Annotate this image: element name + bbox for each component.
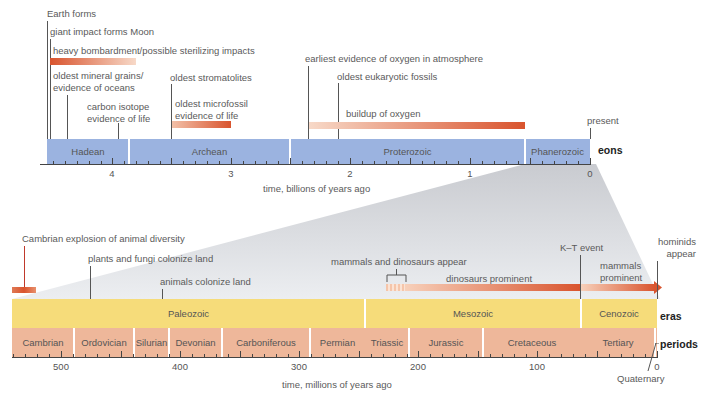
event-mammals-prominent: mammals prominent: [600, 260, 642, 284]
microfossil-bar: [172, 121, 231, 128]
quaternary-label: Quaternary: [617, 373, 665, 385]
event-hominids-line: [657, 261, 658, 299]
quaternary-pointer: [640, 343, 660, 373]
event-oldest-eukaryotic: oldest eukaryotic fossils: [337, 71, 437, 83]
event-plants-fungi: plants and fungi colonize land: [88, 253, 213, 265]
eon-proterozoic-label: Proterozoic: [383, 146, 431, 157]
event-oldest-microfossil: oldest microfossil evidence of life: [175, 98, 248, 122]
present-label: present: [587, 115, 619, 127]
event-oldest-stromatolites-line: [171, 84, 172, 139]
event-buildup-oxygen: buildup of oxygen: [346, 108, 420, 120]
event-carbon-isotope-line: [118, 123, 119, 139]
period-cambrian-label: Cambrian: [22, 337, 63, 348]
event-heavy-bombardment: heavy bombardment/possible sterilizing i…: [53, 45, 255, 57]
mammals-prominent-bar: [581, 284, 655, 291]
event-cambrian-explosion: Cambrian explosion of animal diversity: [22, 233, 185, 245]
dinosaurs-prominent-bar: [405, 284, 580, 291]
era-tick-300: 300: [291, 361, 307, 372]
event-animals-colonize-line: [162, 289, 163, 299]
event-earth-forms-line: [47, 21, 48, 139]
arrowhead-icon: [654, 281, 662, 294]
eon-tick-3: 3: [228, 168, 233, 179]
event-oldest-eukaryotic-line: [338, 83, 339, 139]
eon-archean-label: Archean: [192, 146, 227, 157]
event-oldest-mineral-grains-line: [67, 95, 68, 139]
event-giant-impact-line: [50, 39, 51, 139]
eons-row-label: eons: [598, 144, 623, 156]
eon-axis-label: time, billions of years ago: [263, 183, 370, 195]
bracket-icon: [386, 269, 408, 283]
event-oldest-mineral-grains: oldest mineral grains/ evidence of ocean…: [53, 70, 143, 94]
oxygen-buildup-bar: [309, 122, 525, 129]
event-oldest-mineral-grains-line1: oldest mineral grains/: [53, 70, 143, 82]
era-tick-100: 100: [529, 361, 545, 372]
event-giant-impact: giant impact forms Moon: [50, 26, 154, 38]
event-mammals-prominent-line1: mammals: [600, 260, 642, 272]
event-cambrian-explosion-line: [24, 246, 25, 290]
event-oldest-microfossil-line1: oldest microfossil: [175, 98, 248, 110]
period-jurassic-label: Jurassic: [429, 337, 464, 348]
period-triassic-label: Triassic: [371, 337, 403, 348]
eon-tick-4: 4: [109, 168, 114, 179]
eon-axis-ticks: [0, 158, 706, 165]
mammals-dinosaurs-appear-bar: [386, 284, 405, 291]
event-mammals-dinosaurs-appear: mammals and dinosaurs appear: [331, 256, 467, 268]
era-axis-ticks: [0, 351, 706, 358]
event-hominids-line2: appear: [666, 248, 696, 260]
period-carboniferous-label: Carboniferous: [236, 337, 296, 348]
cambrian-explosion-bar: [12, 287, 36, 293]
period-tertiary-label: Tertiary: [602, 337, 633, 348]
event-plants-fungi-line: [90, 266, 91, 299]
era-mesozoic-label: Mesozoic: [453, 308, 493, 319]
event-carbon-isotope-line1: carbon isotope: [87, 101, 150, 113]
eon-hadean-label: Hadean: [71, 146, 104, 157]
period-permian-label: Permian: [320, 337, 355, 348]
event-animals-colonize: animals colonize land: [160, 276, 251, 288]
event-oldest-mineral-grains-line2: evidence of oceans: [53, 82, 143, 94]
event-kt: K–T event: [560, 242, 603, 254]
bombardment-bar: [50, 58, 136, 65]
eon-phanerozoic-label: Phanerozoic: [531, 146, 584, 157]
eon-tick-2: 2: [347, 168, 352, 179]
era-cenozoic: Cenozoic: [581, 299, 657, 328]
era-paleozoic: Paleozoic: [12, 299, 365, 328]
era-tick-500: 500: [53, 361, 69, 372]
period-cretaceous-label: Cretaceous: [508, 337, 557, 348]
eras-row-label: eras: [660, 310, 682, 322]
event-mammals-prominent-line2: prominent: [600, 272, 642, 284]
event-earliest-oxygen: earliest evidence of oxygen in atmospher…: [305, 53, 483, 65]
event-hominids-line1: hominids: [658, 236, 696, 248]
period-ordovician-label: Ordovician: [81, 337, 126, 348]
event-kt-line: [580, 255, 581, 299]
present-line: [590, 128, 591, 139]
event-earth-forms: Earth forms: [47, 8, 96, 20]
event-oldest-stromatolites: oldest stromatolites: [170, 72, 252, 84]
era-axis-label: time, millions of years ago: [282, 379, 392, 391]
period-silurian-label: Silurian: [136, 337, 168, 348]
periods-row-label: periods: [660, 338, 698, 350]
eon-tick-1: 1: [467, 168, 472, 179]
era-paleozoic-label: Paleozoic: [168, 308, 209, 319]
eon-tick-0: 0: [587, 168, 592, 179]
period-devonian-label: Devonian: [175, 337, 215, 348]
event-carbon-isotope: carbon isotope evidence of life: [87, 101, 150, 125]
event-hominids: hominids appear: [658, 236, 696, 260]
era-tick-200: 200: [410, 361, 426, 372]
era-tick-400: 400: [172, 361, 188, 372]
era-cenozoic-label: Cenozoic: [599, 308, 639, 319]
era-mesozoic: Mesozoic: [365, 299, 581, 328]
